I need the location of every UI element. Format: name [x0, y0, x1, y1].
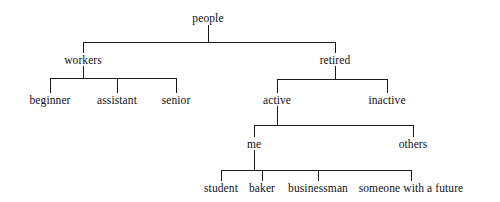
tree-node-beginner: beginner [29, 94, 70, 107]
tree-node-active: active [263, 94, 291, 107]
tree-node-others: others [399, 138, 428, 151]
tree-node-inactive: inactive [368, 94, 405, 107]
tree-node-retired: retired [320, 54, 351, 67]
tree-node-assistant: assistant [97, 94, 137, 107]
tree-node-future: someone with a future [359, 182, 464, 195]
tree-node-student: student [204, 182, 238, 195]
tree-node-senior: senior [162, 94, 191, 107]
tree-node-baker: baker [249, 182, 275, 195]
tree-edges-layer [0, 0, 500, 202]
tree-diagram: peopleworkersretiredbeginnerassistantsen… [0, 0, 500, 202]
tree-node-people: people [192, 12, 223, 25]
tree-node-businessman: businessman [288, 182, 348, 195]
tree-node-me: me [247, 138, 261, 151]
tree-node-workers: workers [64, 54, 102, 67]
